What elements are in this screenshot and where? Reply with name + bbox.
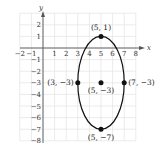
data-point	[75, 80, 80, 85]
x-tick-label: 1	[52, 50, 56, 58]
y-tick-labels: 21−1−2−3−4−5−6−7−8	[31, 21, 42, 145]
point-label: (5, −7)	[88, 133, 115, 142]
y-tick-label: −1	[31, 56, 41, 64]
x-axis-label: x	[147, 44, 151, 52]
x-tick-label: 6	[110, 50, 115, 58]
x-tick-label: 3	[76, 50, 80, 58]
x-tick-label: 2	[64, 50, 68, 58]
point-label: (3, −3)	[47, 78, 74, 87]
y-tick-label: −5	[31, 103, 41, 111]
data-point	[99, 34, 104, 39]
y-tick-label: −8	[31, 137, 41, 145]
x-tick-label: 5	[99, 50, 103, 58]
x-tick-label: 7	[122, 50, 126, 58]
data-point	[99, 80, 104, 85]
data-point	[122, 80, 127, 85]
point-label: (5, −3)	[88, 86, 115, 95]
ellipse-chart: x y −2−112345678 21−1−2−3−4−5−6−7−8 (5, …	[0, 0, 161, 153]
x-tick-label: −2	[15, 50, 25, 58]
y-tick-label: −4	[31, 91, 42, 99]
y-tick-label: 2	[37, 21, 41, 29]
y-tick-label: −7	[31, 126, 41, 134]
x-axis-arrow-icon	[139, 46, 145, 50]
y-axis-label: y	[38, 4, 44, 12]
x-tick-label: 8	[134, 50, 138, 58]
point-label: (7, −3)	[128, 78, 155, 87]
y-tick-label: −6	[31, 114, 42, 122]
x-tick-label: 4	[87, 50, 92, 58]
data-point	[99, 127, 104, 132]
y-tick-label: −3	[31, 79, 41, 87]
y-tick-label: −2	[31, 68, 41, 76]
y-tick-label: 1	[37, 33, 41, 41]
point-label: (5, 1)	[91, 23, 111, 32]
